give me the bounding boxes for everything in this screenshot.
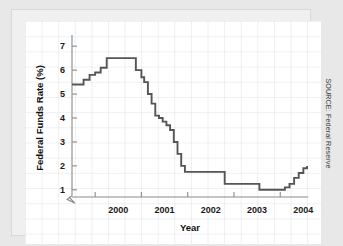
- y-tick-label: 4: [60, 113, 65, 123]
- y-tick-label: 7: [60, 41, 65, 51]
- x-tick-label: 2001: [155, 205, 175, 215]
- x-tick-label: 2000: [108, 205, 128, 215]
- chart-tick-marks: [72, 46, 280, 197]
- chart-series-group: [72, 58, 307, 190]
- chart-figure-frame: 123456720002001200220032004 YearFederal …: [11, 9, 311, 236]
- chart-axes: [67, 35, 308, 203]
- x-tick-label: 2002: [201, 205, 221, 215]
- y-tick-label: 5: [60, 89, 65, 99]
- screenshot-root: 123456720002001200220032004 YearFederal …: [0, 0, 343, 246]
- y-tick-label: 6: [60, 65, 65, 75]
- data-series-line: [72, 58, 307, 190]
- source-note-text: SOURCE: Federal Reserve: [324, 78, 333, 168]
- chart-plot-card: 123456720002001200220032004 YearFederal …: [25, 21, 321, 244]
- y-tick-label: 1: [60, 185, 65, 195]
- line-chart: 123456720002001200220032004 YearFederal …: [25, 21, 321, 244]
- source-note: SOURCE: Federal Reserve: [315, 0, 341, 246]
- x-tick-label: 2003: [247, 205, 267, 215]
- y-tick-label: 2: [60, 161, 65, 171]
- x-axis-title: Year: [180, 222, 200, 233]
- y-tick-label: 3: [60, 137, 65, 147]
- y-axis-title: Federal Funds Rate (%): [34, 65, 45, 171]
- x-tick-label: 2004: [293, 205, 313, 215]
